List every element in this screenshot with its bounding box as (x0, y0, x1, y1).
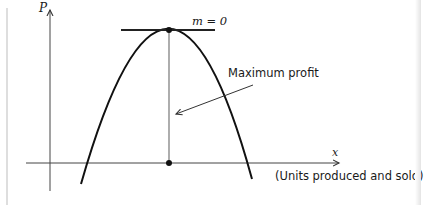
max-x-point (166, 160, 172, 166)
annotation-arrow (176, 85, 253, 114)
x-axis-caption: (Units produced and sold) (275, 169, 424, 183)
maximum-profit-label: Maximum profit (228, 66, 319, 80)
y-axis-label: P (39, 1, 47, 15)
page-edge-shadow (415, 0, 421, 205)
x-axis-label: x (332, 146, 338, 159)
max-point (166, 27, 172, 33)
tangent-slope-label: m = 0 (192, 14, 227, 28)
profit-curve (81, 29, 252, 184)
